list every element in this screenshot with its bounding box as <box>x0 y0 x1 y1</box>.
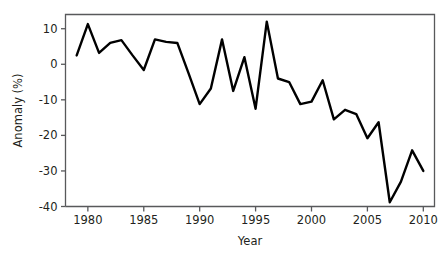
y-tick-label: 0 <box>50 57 57 71</box>
y-axis-title: Anomaly (%) <box>11 74 25 148</box>
y-axis-ticks: 100-10-20-30-40 <box>39 22 66 214</box>
y-tick-label: -30 <box>39 164 58 178</box>
x-tick-label: 1980 <box>73 213 102 227</box>
x-tick-label: 1990 <box>185 213 214 227</box>
y-tick-label: -20 <box>39 128 58 142</box>
x-tick-label: 2000 <box>297 213 326 227</box>
chart-container: 100-10-20-30-40 198019851990199520002005… <box>0 0 448 259</box>
x-tick-label: 2005 <box>353 213 382 227</box>
data-series-anomaly <box>77 22 424 203</box>
x-axis-ticks: 1980198519901995200020052010 <box>73 207 438 228</box>
x-tick-label: 1985 <box>129 213 158 227</box>
x-tick-label: 1995 <box>241 213 270 227</box>
plot-frame <box>66 15 435 207</box>
plot-border <box>66 15 435 207</box>
y-tick-label: -40 <box>39 200 58 214</box>
anomaly-line <box>77 22 424 203</box>
y-tick-label: 10 <box>43 22 58 36</box>
y-tick-label: -10 <box>39 93 58 107</box>
line-chart: 100-10-20-30-40 198019851990199520002005… <box>0 0 448 259</box>
x-tick-label: 2010 <box>409 213 438 227</box>
x-axis-title: Year <box>237 234 263 248</box>
